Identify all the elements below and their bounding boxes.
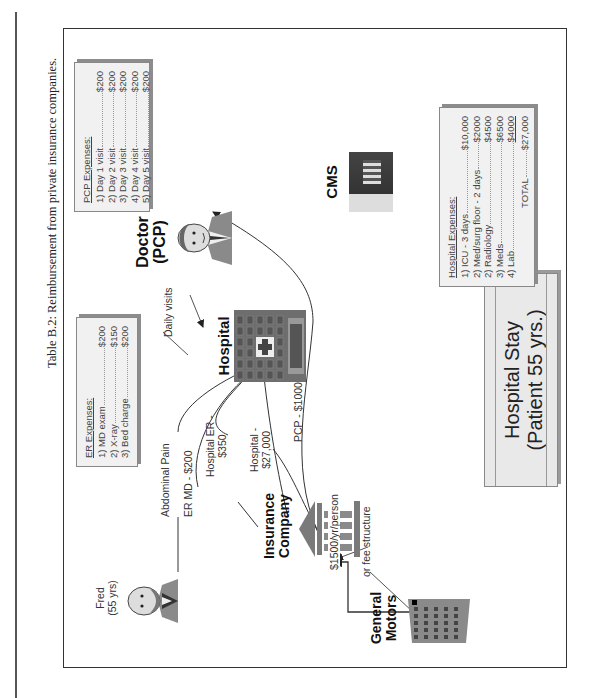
edge-label-daily-visits: Daily visits xyxy=(162,287,174,337)
hospital-building-icon xyxy=(234,310,306,382)
office-building-icon xyxy=(404,593,474,649)
hospital-label: Hospital xyxy=(216,310,231,382)
pcp-expenses-box: PCP Expenses: 1) Day 1 visit$200 2) Day … xyxy=(74,62,150,212)
expense-row: 5) Day 5 visit$200 xyxy=(140,71,152,203)
expense-row: 2) Day 2 visit$200 xyxy=(106,71,118,203)
diagram-frame: Hospital Stay (Patient 55 yrs.) CMS xyxy=(63,28,567,668)
expense-row: 3) Bed charge$200 xyxy=(119,326,131,458)
er-expenses-box: ER Expenses: 1) MD exam$200 2) X-ray$150… xyxy=(76,317,138,467)
expense-row: 4) Day 4 visit$200 xyxy=(129,71,141,203)
rotated-figure: Table B.2: Reimbursement from private in… xyxy=(37,28,569,668)
edge-label-hospital-27000: Hospital - $27,000 xyxy=(248,428,272,472)
edge-label-hospital-er-350: Hospital ER - $350 xyxy=(204,415,228,477)
title-line-1: Hospital Stay xyxy=(501,274,524,486)
expense-row: 3) Day 3 visit$200 xyxy=(117,71,129,203)
edge-label-gm-payment: $1500/yr/person xyxy=(328,492,340,572)
er-expenses-heading: ER Expenses: xyxy=(83,326,94,458)
hospital-expenses-heading: Hospital Expenses: xyxy=(446,116,457,278)
page-margin-rule xyxy=(15,12,17,698)
doctor-pcp-label: Doctor (PCP) xyxy=(134,202,168,282)
title-band-top xyxy=(485,274,496,486)
edge-label-pcp-1000: PCP - $1000 xyxy=(292,382,304,442)
title-line-2: (Patient 55 yrs.) xyxy=(524,274,547,486)
figure-caption: Table B.2: Reimbursement from private in… xyxy=(45,58,60,368)
capitol-photo-icon xyxy=(349,152,393,212)
expense-row: 2) Med/surg floor - 2 days$2000 xyxy=(471,116,483,278)
insurance-company-label: Insurance Company xyxy=(262,491,292,561)
edge-label-abdominal-pain: Abdominal Pain xyxy=(159,443,171,517)
hospital-expenses-box: Hospital Expenses: 1) ICU - 3 days$10,00… xyxy=(439,107,535,287)
expense-row: 1) MD exam$200 xyxy=(96,326,108,458)
general-motors-label: General Motors xyxy=(369,583,399,653)
expense-total-row: TOTAL$27,000 xyxy=(519,116,531,278)
edge-label-fee-structure: or fee structure xyxy=(360,506,372,577)
pcp-expenses-heading: PCP Expenses: xyxy=(81,71,92,203)
title-band-bottom xyxy=(546,274,557,486)
expense-row: 2) X-ray$150 xyxy=(108,326,120,458)
patient-avatar-icon xyxy=(122,575,180,627)
fred-label: Fred (55 yrs) xyxy=(94,573,118,623)
cms-label: CMS xyxy=(324,159,339,205)
doctor-avatar-icon xyxy=(172,207,234,269)
edge-label-er-md-200: ER MD - $200 xyxy=(182,450,194,517)
expense-row: 1) ICU - 3 days$10,000 xyxy=(459,116,471,278)
hospital-stay-title-box: Hospital Stay (Patient 55 yrs.) xyxy=(484,273,558,487)
expense-row: 2) Radiology$4500 xyxy=(482,116,494,278)
expense-row: 1) Day 1 visit$200 xyxy=(94,71,106,203)
expense-row: 3) Meds$6500 xyxy=(494,116,506,278)
expense-row: 4) Lab$4000 xyxy=(505,116,517,278)
